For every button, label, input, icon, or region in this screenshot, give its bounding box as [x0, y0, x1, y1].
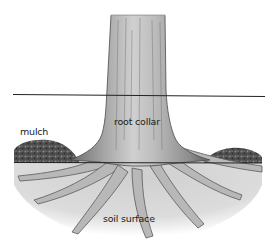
mulch-label: mulch	[20, 126, 48, 137]
soil-line	[14, 163, 262, 164]
root-collar-diagram: mulch root collar soil surface	[0, 0, 276, 246]
root-collar-label: root collar	[114, 116, 160, 127]
soil-surface-label: soil surface	[103, 213, 155, 224]
mulch-mound-left	[14, 140, 80, 163]
